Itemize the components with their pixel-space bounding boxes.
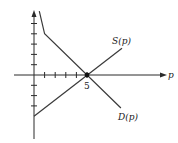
series-lines — [34, 11, 122, 116]
supply-label: S(p) — [112, 36, 131, 46]
tick-marks — [31, 24, 87, 106]
equilibrium-point — [85, 73, 90, 78]
x-axis-label: p — [168, 70, 174, 80]
x-axis-arrow-icon — [160, 73, 167, 78]
supply-demand-chart: 5 p S(p) D(p) — [0, 0, 178, 143]
y-axis-arrow-icon — [32, 10, 37, 17]
x-tick-label-5: 5 — [84, 81, 90, 91]
demand-line — [39, 11, 121, 108]
supply-line — [34, 48, 122, 116]
demand-label: D(p) — [117, 112, 138, 122]
